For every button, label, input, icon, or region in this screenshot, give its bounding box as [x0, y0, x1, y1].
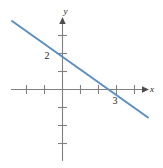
x-intercept-label: 3	[113, 95, 118, 106]
x-axis-arrow-icon	[142, 86, 149, 92]
coordinate-plane-figure: y x 2 3	[0, 0, 163, 168]
y-axis-arrow-icon	[59, 17, 65, 24]
graph-svg: y x 2 3	[0, 0, 163, 168]
plotted-line	[12, 21, 148, 118]
y-intercept-label: 2	[45, 50, 50, 61]
y-axis-label: y	[63, 6, 68, 16]
x-axis-label: x	[149, 84, 154, 94]
